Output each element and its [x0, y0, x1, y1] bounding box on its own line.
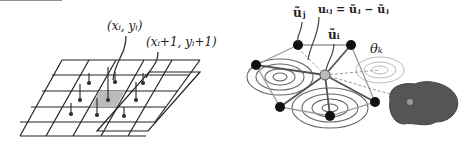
diagram-canvas: [0, 0, 476, 145]
label-uij: uᵢⱼ = ũⱼ − ũⱼ: [318, 3, 389, 16]
label-theta-k: θₖ: [370, 41, 383, 56]
label-uj: ũⱼ: [293, 6, 306, 20]
brain-image: [390, 82, 458, 125]
label-xi-yi: (xᵢ, yᵢ): [107, 19, 142, 33]
label-xi1-yi1: (xᵢ+1, yᵢ+1): [146, 35, 217, 49]
graph-nodes: [251, 40, 380, 121]
label-ui: ũᵢ: [328, 28, 340, 42]
label-leaders: [298, 17, 334, 70]
center-node: [320, 70, 330, 80]
grid: [0, 0, 200, 131]
contours: [247, 59, 368, 128]
